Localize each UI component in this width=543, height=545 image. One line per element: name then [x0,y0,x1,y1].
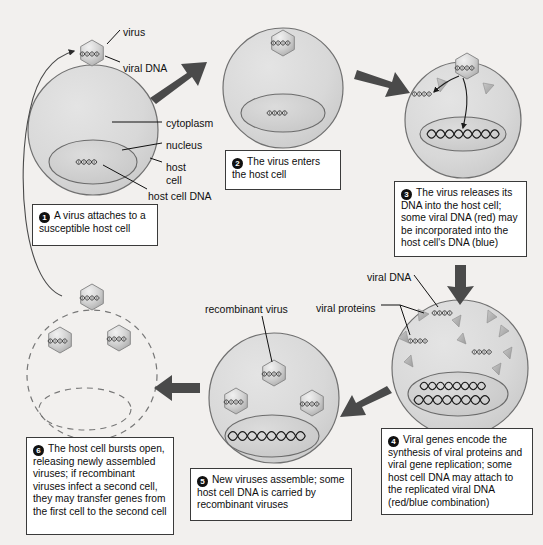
label-viral-dna-step4: viral DNA [367,271,411,283]
label-host-cell-line2: cell [166,174,182,186]
step-number-badge: 5 [197,476,208,487]
step-number-badge: 4 [388,436,399,447]
callout-step-5: 5New viruses assemble; some host cell DN… [190,468,352,521]
callout-text: Viral genes encode the synthesis of vira… [388,434,522,508]
virus-released-top [80,284,103,310]
callout-step-3: 3The virus releases its DNA into the hos… [394,181,527,257]
label-host-cell-line1: host [166,161,186,173]
callout-step-1: 1A virus attaches to a susceptible host … [32,204,158,246]
callout-text: A virus attaches to a susceptible host c… [39,210,146,234]
label-nucleus: nucleus [166,139,202,151]
callout-text: New viruses assemble; some host cell DNA… [197,474,344,510]
cell-step-1 [28,65,158,195]
label-viral-proteins: viral proteins [316,302,376,314]
step-number-badge: 6 [33,445,44,456]
label-recombinant-virus: recombinant virus [205,303,288,315]
arrow-3-to-4 [447,265,474,305]
callout-text: The host cell bursts open, releasing new… [33,443,167,517]
callout-step-4: 4Viral genes encode the synthesis of vir… [381,428,533,515]
label-cytoplasm: cytoplasm [166,117,213,129]
step-number-badge: 1 [39,212,50,223]
virus-released-left [48,327,71,353]
cell-step-6 [27,310,157,440]
arrow-5-to-6 [154,375,200,401]
callout-step-2: 2The virus enters the host cell [225,150,341,190]
label-host-cell-dna: host cell DNA [148,190,212,202]
callout-text: The virus enters the host cell [232,156,320,180]
step-number-badge: 3 [401,189,412,200]
diagram-canvas: virus viral DNA cytoplasm nucleus host c… [0,0,543,545]
virus-released-right [107,325,130,351]
callout-step-6: 6The host cell bursts open, releasing ne… [26,437,174,535]
arrow-4-to-5 [340,386,392,417]
virus-attaching [80,40,103,66]
callout-text: The virus releases its DNA into the host… [401,187,518,248]
step-number-badge: 2 [232,158,243,169]
cell-step-4 [392,300,528,436]
arrow-2-to-3 [354,70,410,97]
label-virus: virus [123,26,145,38]
label-viral-dna: viral DNA [123,62,167,74]
